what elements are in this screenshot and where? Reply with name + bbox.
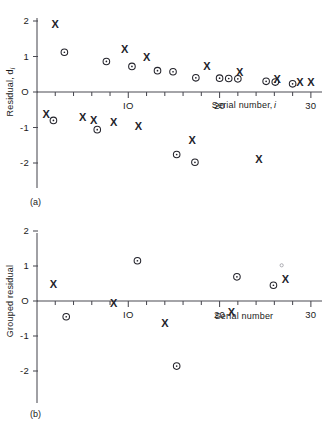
data-point-circle-marker <box>63 313 70 320</box>
data-point-circle-marker <box>129 63 136 70</box>
data-point-x-marker: X <box>255 153 263 165</box>
data-point-x-marker: X <box>52 18 60 30</box>
y-axis-tick-label: -2 <box>20 157 29 168</box>
y-axis-tick-label: 2 <box>23 15 29 26</box>
y-axis-title: Grouped residual <box>5 265 15 337</box>
data-point-circle-marker <box>270 282 277 289</box>
data-point-circle-marker <box>170 68 177 75</box>
data-point-circle-marker <box>103 58 110 65</box>
y-axis-tick-label: 2 <box>23 225 29 236</box>
panel-b-plot-area: 21O-1-2IO2030XXXXXGrouped residualSerial… <box>0 215 334 427</box>
y-axis-tick-label: 1 <box>23 260 29 271</box>
data-point-x-marker: X <box>296 76 304 88</box>
data-point-circle-marker <box>154 67 161 74</box>
y-axis-tick-label: O <box>21 295 29 306</box>
data-point-x-marker: X <box>90 114 98 126</box>
x-axis-tick-label: 30 <box>305 100 316 111</box>
y-axis-tick-label: -1 <box>20 330 29 341</box>
data-point-x-marker: X <box>189 134 197 146</box>
data-point-x-marker: X <box>161 317 169 329</box>
data-point-circle-marker <box>173 363 180 370</box>
x-axis-tick-label: 30 <box>305 309 316 320</box>
data-point-faint-speck <box>280 264 283 267</box>
data-point-x-marker: X <box>79 111 87 123</box>
data-point-circle-marker <box>94 126 101 133</box>
y-axis-tick-label: -1 <box>20 122 29 133</box>
panel-a-plot-area: 21O-1-2IO2030XXXXXXXXXXXXXXXResidual, di… <box>0 0 334 215</box>
x-axis-title: Serial number,i <box>212 100 277 110</box>
y-axis-title: Residual, di <box>5 67 16 116</box>
data-point-x-marker: X <box>282 273 290 285</box>
data-point-circle-marker <box>134 257 141 264</box>
data-point-circle-marker <box>50 117 57 124</box>
data-point-x-marker: X <box>121 43 129 55</box>
data-point-circle-marker <box>289 81 296 88</box>
data-point-circle-marker <box>193 75 200 82</box>
data-point-x-marker: X <box>110 116 118 128</box>
data-point-circle-marker <box>173 151 180 158</box>
data-point-circle-marker <box>216 75 223 82</box>
data-point-x-marker: X <box>143 51 151 63</box>
data-point-x-marker: X <box>110 297 118 309</box>
panel-b-grouped-residual-scatter: 21O-1-2IO2030XXXXXGrouped residualSerial… <box>0 215 334 427</box>
x-axis-tick-label: IO <box>123 309 134 320</box>
data-point-x-marker: X <box>50 278 58 290</box>
x-axis-title: Serial number <box>215 311 274 321</box>
y-axis-tick-label: -2 <box>20 365 29 376</box>
data-point-x-marker: X <box>203 60 211 72</box>
panel-a-residual-scatter: 21O-1-2IO2030XXXXXXXXXXXXXXXResidual, di… <box>0 0 334 215</box>
panel-caption: (a) <box>30 197 41 207</box>
data-point-circle-marker <box>263 78 270 85</box>
data-point-x-marker: X <box>307 76 315 88</box>
data-point-circle-marker <box>61 49 68 56</box>
panel-caption: (b) <box>30 409 41 419</box>
data-point-x-marker: X <box>135 120 143 132</box>
y-axis-tick-label: O <box>21 86 29 97</box>
data-point-circle-marker <box>225 75 232 82</box>
data-point-x-marker: X <box>42 108 50 120</box>
data-point-circle-marker <box>192 159 199 166</box>
x-axis-tick-label: IO <box>123 100 134 111</box>
data-point-circle-marker <box>234 274 241 281</box>
y-axis-tick-label: 1 <box>23 51 29 62</box>
residual-plots-figure: 21O-1-2IO2030XXXXXXXXXXXXXXXResidual, di… <box>0 0 334 427</box>
